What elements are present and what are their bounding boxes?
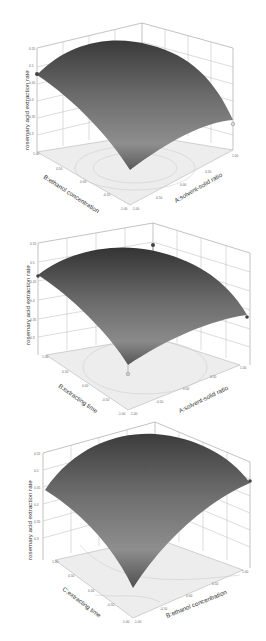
svg-text:-0.50: -0.50 — [155, 196, 162, 200]
svg-text:0.50: 0.50 — [62, 370, 68, 374]
svg-text:0.5: 0.5 — [29, 64, 34, 68]
svg-text:0.3: 0.3 — [34, 537, 39, 541]
svg-text:-0.50: -0.50 — [156, 400, 163, 404]
z-axis-label: rosemary acid extraction rate — [26, 480, 33, 560]
svg-text:0.00: 0.00 — [186, 594, 192, 598]
surface-plot-1-canvas: 0.55 0.5 0.45 0.4 0.35 0.3 rosemary acid… — [0, 0, 266, 215]
svg-text:-1.00: -1.00 — [134, 620, 141, 624]
svg-text:0.50: 0.50 — [205, 170, 211, 174]
svg-text:0.00: 0.00 — [80, 180, 86, 184]
svg-text:0.45: 0.45 — [34, 486, 40, 490]
surface-plot-3-canvas: 0.55 0.5 0.45 0.4 0.35 0.3 rosemary acid… — [0, 420, 266, 641]
svg-text:1.00: 1.00 — [42, 355, 48, 359]
surface-plot-2: 0.55 0.5 0.45 0.4 0.35 0.3 rosemary acid… — [0, 215, 266, 420]
svg-text:-1.00: -1.00 — [132, 207, 139, 211]
design-point — [245, 315, 249, 319]
surface-plot-1: 0.55 0.5 0.45 0.4 0.35 0.3 rosemary acid… — [0, 0, 266, 215]
design-point — [36, 274, 40, 278]
svg-text:1.00: 1.00 — [33, 152, 39, 156]
svg-text:-0.50: -0.50 — [107, 603, 114, 607]
design-point — [151, 243, 155, 247]
response-surface — [38, 247, 247, 365]
svg-text:0.4: 0.4 — [34, 503, 39, 507]
svg-text:0.55: 0.55 — [29, 47, 35, 51]
svg-text:-0.50: -0.50 — [103, 193, 110, 197]
svg-text:0.35: 0.35 — [34, 520, 40, 524]
svg-text:0.00: 0.00 — [82, 384, 88, 388]
z-axis-label: rosemary acid extraction rate — [23, 70, 30, 150]
svg-text:0.50: 0.50 — [56, 167, 62, 171]
svg-text:1.00: 1.00 — [242, 570, 248, 574]
design-point — [126, 372, 130, 376]
svg-text:0.55: 0.55 — [34, 452, 40, 456]
svg-text:0.00: 0.00 — [183, 387, 189, 391]
svg-text:0.00: 0.00 — [88, 589, 94, 593]
svg-text:-1.00: -1.00 — [118, 412, 125, 416]
svg-text:1.00: 1.00 — [232, 154, 238, 158]
svg-text:-1.00: -1.00 — [130, 412, 137, 416]
svg-text:0.50: 0.50 — [212, 582, 218, 586]
surface-plot-2-canvas: 0.55 0.5 0.45 0.4 0.35 0.3 rosemary acid… — [0, 215, 266, 420]
z-axis-label: rosemary acid extraction rate — [24, 265, 31, 345]
svg-text:-1.00: -1.00 — [120, 207, 127, 211]
svg-text:0.55: 0.55 — [30, 242, 36, 246]
svg-text:-0.50: -0.50 — [102, 398, 109, 402]
design-point — [231, 122, 235, 126]
surface-plot-3: 0.55 0.5 0.45 0.4 0.35 0.3 rosemary acid… — [0, 420, 266, 641]
svg-text:-0.50: -0.50 — [160, 607, 167, 611]
svg-text:1.00: 1.00 — [240, 366, 246, 370]
svg-text:0.00: 0.00 — [180, 183, 186, 187]
z-axis-ticks: 0.55 0.5 0.45 0.4 0.35 0.3 — [34, 452, 40, 541]
design-point — [35, 72, 39, 76]
svg-text:0.50: 0.50 — [210, 375, 216, 379]
svg-text:1.00: 1.00 — [52, 560, 58, 564]
svg-text:-1.00: -1.00 — [122, 620, 129, 624]
svg-text:0.50: 0.50 — [68, 574, 74, 578]
svg-text:0.5: 0.5 — [30, 261, 35, 265]
svg-text:0.5: 0.5 — [34, 469, 39, 473]
design-point — [248, 479, 252, 483]
